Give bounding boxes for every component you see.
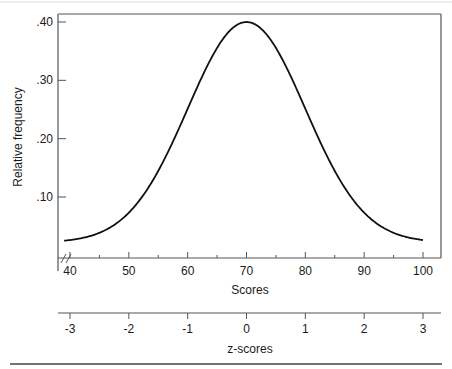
y-tick-label: .30 xyxy=(36,73,53,87)
z-tick-label: 1 xyxy=(302,322,309,336)
x-tick-label: 90 xyxy=(357,264,371,278)
x-tick-label: 50 xyxy=(122,264,136,278)
z-tick-label: -1 xyxy=(182,322,193,336)
x-tick-label: 100 xyxy=(413,264,433,278)
x-tick-label: 80 xyxy=(299,264,313,278)
x-tick-label: 60 xyxy=(181,264,195,278)
z-tick-label: 2 xyxy=(361,322,368,336)
x-axis-label: Scores xyxy=(231,283,268,297)
x-tick-label: 40 xyxy=(63,264,77,278)
z-tick-label: 0 xyxy=(243,322,250,336)
plot-frame xyxy=(58,14,441,271)
normal-curve-line xyxy=(64,22,423,241)
z-axis-ticks: -3-2-10123 xyxy=(65,313,427,336)
y-axis-ticks: .10.20.30.40 xyxy=(36,15,66,204)
z-tick-label: -2 xyxy=(123,322,134,336)
x-tick-label: 70 xyxy=(240,264,254,278)
y-axis-label: Relative frequency xyxy=(11,87,25,186)
y-tick-label: .40 xyxy=(36,15,53,29)
z-axis-label: z-scores xyxy=(227,342,272,356)
z-tick-label: 3 xyxy=(420,322,427,336)
normal-curve-figure: .10.20.30.40 405060708090100 Relative fr… xyxy=(0,0,452,369)
y-tick-label: .10 xyxy=(36,190,53,204)
y-tick-label: .20 xyxy=(36,132,53,146)
x-axis-ticks: 405060708090100 xyxy=(63,252,433,278)
z-tick-label: -3 xyxy=(65,322,76,336)
